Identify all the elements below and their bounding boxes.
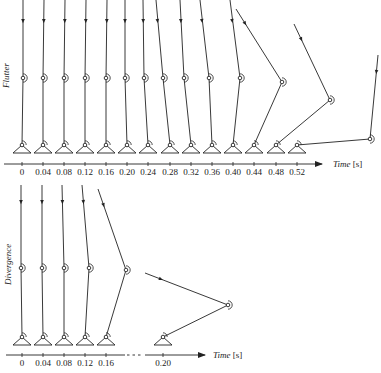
- hinge-icon: [238, 76, 242, 80]
- divergence-panel-label: Divergence: [3, 244, 13, 286]
- lower-link: [163, 305, 228, 337]
- load-arrow-icon: [84, 19, 88, 23]
- lower-link: [209, 78, 212, 145]
- hinge-icon: [41, 76, 45, 80]
- upper-link: [156, 0, 163, 78]
- upper-link: [98, 189, 126, 270]
- base-hinge-icon: [252, 143, 256, 147]
- lower-link: [297, 139, 370, 145]
- lower-link: [276, 100, 330, 145]
- lower-link: [184, 78, 191, 145]
- hinge-icon: [142, 76, 146, 80]
- base-hinge-icon: [41, 335, 45, 339]
- upper-link: [200, 0, 209, 78]
- upper-link: [294, 24, 330, 100]
- hinge-icon: [124, 268, 128, 272]
- tick-label: 0: [20, 358, 25, 368]
- lower-link: [144, 78, 148, 145]
- tick-label: 0.28: [162, 167, 178, 177]
- base-hinge-icon: [62, 335, 66, 339]
- lower-link: [22, 78, 23, 145]
- pendulum-frame: [145, 273, 232, 345]
- base-hinge-icon: [231, 143, 235, 147]
- tick-label: 0.44: [246, 167, 262, 177]
- flutter-axis-label: Time [s]: [333, 159, 362, 169]
- pendulum-frame: [288, 55, 378, 153]
- hinge-icon: [368, 137, 372, 141]
- tick-label: 0: [20, 167, 25, 177]
- hinge-icon: [62, 76, 66, 80]
- upper-link: [236, 9, 282, 82]
- tick-label: 0.32: [183, 167, 199, 177]
- tick-label: 0.20: [119, 167, 135, 177]
- tick-label: 0.04: [35, 358, 51, 368]
- hinge-icon: [328, 98, 332, 102]
- tick-label: 0.52: [289, 167, 305, 177]
- divergence-panel: 00.040.080.120.160.20 Time [s] Divergenc…: [3, 185, 242, 368]
- base-hinge-icon: [274, 143, 278, 147]
- tick-label: 0.48: [268, 167, 284, 177]
- hinge-icon: [62, 266, 66, 270]
- flutter-frames: [13, 0, 378, 153]
- base-hinge-icon: [83, 335, 87, 339]
- load-arrow-icon: [123, 19, 127, 23]
- hinge-icon: [207, 76, 211, 80]
- lower-link: [233, 78, 240, 145]
- tick-label: 0.08: [56, 167, 72, 177]
- flutter-divergence-diagram: 00.040.080.120.160.200.240.280.320.360.4…: [0, 0, 381, 373]
- lower-link: [85, 268, 89, 337]
- pendulum-frame: [13, 0, 31, 153]
- upper-link: [85, 0, 86, 78]
- lower-link: [106, 270, 126, 337]
- upper-link: [143, 0, 144, 78]
- load-arrow-icon: [158, 277, 163, 280]
- base-hinge-icon: [20, 143, 24, 147]
- hinge-icon: [83, 76, 87, 80]
- pendulum-frame: [156, 0, 179, 153]
- hinge-icon: [19, 266, 23, 270]
- load-arrow-icon: [42, 19, 46, 23]
- hinge-icon: [182, 76, 186, 80]
- lower-link: [254, 82, 282, 145]
- upper-link: [230, 0, 240, 78]
- hinge-icon: [40, 266, 44, 270]
- tick-label: 0.04: [35, 167, 51, 177]
- pendulum-frame: [224, 0, 244, 153]
- upper-link: [43, 0, 44, 78]
- upper-link: [180, 0, 184, 78]
- upper-link: [62, 185, 64, 268]
- base-hinge-icon: [189, 143, 193, 147]
- pendulum-frame: [76, 0, 94, 153]
- load-arrow-icon: [156, 19, 160, 23]
- tick-label: 0.24: [140, 167, 156, 177]
- tick-label: 0.12: [77, 358, 93, 368]
- hinge-icon: [104, 76, 108, 80]
- upper-link: [370, 55, 378, 139]
- load-arrow-icon: [61, 200, 65, 204]
- pendulum-frame: [97, 189, 130, 345]
- hinge-icon: [161, 76, 165, 80]
- tick-label: 0.20: [155, 358, 171, 368]
- lower-link: [125, 78, 127, 145]
- base-hinge-icon: [20, 335, 24, 339]
- pendulum-frame: [200, 0, 221, 153]
- lower-link: [42, 268, 43, 337]
- base-hinge-icon: [146, 143, 150, 147]
- tick-label: 0.08: [56, 358, 72, 368]
- pendulum-frame: [34, 0, 52, 153]
- tick-label: 0.12: [77, 167, 93, 177]
- pendulum-frame: [34, 185, 52, 345]
- base-hinge-icon: [83, 143, 87, 147]
- tick-label: 0.16: [98, 358, 114, 368]
- upper-link: [106, 0, 107, 78]
- pendulum-frame: [76, 185, 94, 345]
- load-arrow-icon: [141, 19, 145, 23]
- hinge-icon: [226, 303, 230, 307]
- hinge-icon: [280, 80, 284, 84]
- pendulum-frame: [139, 0, 157, 153]
- base-hinge-icon: [295, 143, 299, 147]
- flutter-panel: 00.040.080.120.160.200.240.280.320.360.4…: [1, 0, 378, 177]
- load-arrow-icon: [105, 19, 109, 23]
- base-hinge-icon: [210, 143, 214, 147]
- pendulum-frame: [13, 185, 31, 345]
